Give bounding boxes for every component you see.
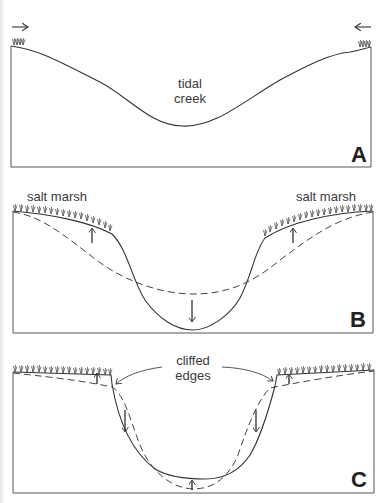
panel-b-previous-profile bbox=[13, 212, 373, 294]
panel-b bbox=[13, 204, 373, 333]
panel-c-frame bbox=[13, 370, 374, 493]
panel-letter-b: B bbox=[350, 309, 366, 331]
panel-b-current-profile bbox=[13, 211, 373, 330]
label-salt-marsh-left: salt marsh bbox=[27, 189, 87, 204]
label-tidal: tidal bbox=[165, 76, 215, 91]
panel-c-current-profile bbox=[13, 370, 374, 479]
panel-c-previous-profile bbox=[13, 371, 374, 489]
pointer-arrow-icon bbox=[222, 367, 273, 381]
panel-letter-c: C bbox=[351, 469, 367, 491]
pointer-arrow-icon bbox=[116, 367, 162, 384]
label-creek: creek bbox=[165, 91, 215, 106]
grass-icon bbox=[14, 204, 374, 236]
label-cliffed: cliffed bbox=[170, 353, 216, 368]
panel-b-frame bbox=[13, 211, 373, 333]
panel-letter-a: A bbox=[351, 144, 367, 166]
grass-icon bbox=[13, 38, 372, 47]
label-edges: edges bbox=[170, 368, 216, 383]
label-salt-marsh-right: salt marsh bbox=[296, 189, 356, 204]
